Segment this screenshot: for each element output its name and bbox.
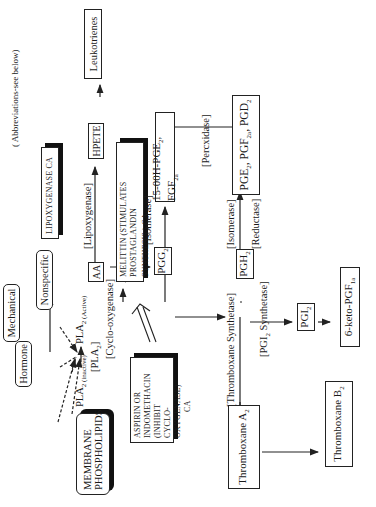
thromboxane-b2-box: Thromboxane B2 — [325, 381, 353, 467]
lipoxygenase-ca-label: LIPOXYGENASE CA — [43, 153, 57, 238]
aa-box: AA — [88, 262, 104, 282]
hpete-label: HPETE — [91, 125, 102, 156]
pla2-active-label: PLA2 (Active) — [74, 296, 88, 344]
membrane-phospholipids-box: MEMBRANE PHOSPHOLIPIDS — [76, 413, 110, 495]
lipoxygenase-label: [Lipoxygenase] — [82, 183, 93, 249]
aspirin-line-2: INDOMETHACIN (INHIBIT — [143, 358, 163, 442]
pgg2-box: PGG2 — [154, 247, 172, 275]
pge2-pgf2a-pgd2-box: PGE2, PGF2a, PGD2 — [232, 95, 260, 195]
6-keto-pgf1a-label: 6-keto-PGF1a — [342, 278, 357, 337]
abbreviations-note: ( Abbreviations-see below) — [10, 50, 20, 147]
nonspecific-label: Nonspecific — [39, 255, 50, 306]
melittin-line-1: MELITTIN (STIMULATES PROSTAGLANDIN — [117, 143, 141, 281]
prostaglandin-pathway-diagram: ( Abbreviations-see below) MEMBRANE PHOS… — [0, 0, 376, 507]
aa-label: AA — [91, 265, 102, 279]
leukotrienes-label: Leukotrienes — [88, 17, 99, 72]
hydroperoxy-label: 15-00H-PGE2, FGF2a — [150, 113, 180, 201]
aspirin-callout: ASPIRIN OR INDOMETHACIN (INHIBIT CYCLO-O… — [130, 357, 174, 443]
peroxidase-label: [Percxidase] — [200, 115, 211, 167]
aspirin-line-3: CYCLO-OXYGENASE) — [163, 358, 183, 442]
melittin-callout: MELITTIN (STIMULATES PROSTAGLANDIN SYNTH… — [116, 142, 144, 282]
reductase-label: [Reductase] — [250, 199, 261, 249]
pgi2-box: PGI2 — [297, 303, 315, 331]
aspirin-line-1: ASPIRIN OR — [131, 358, 143, 442]
pgi2-synthetase-label: [PGI2 Synthetase] — [258, 281, 272, 357]
thromboxane-a2-label: Thromboxane A2 — [236, 409, 251, 484]
isomerase-label-1: [Isomerase] — [142, 195, 153, 245]
hormone-box: Hormone — [15, 341, 32, 387]
cyclooxygenase-label: [Cyclo-oxygenase] — [104, 279, 115, 359]
pla2-inactive-label: PLA2 (inactive) — [74, 355, 88, 407]
isomerase-label-2: [Isomerase] — [225, 199, 236, 249]
hydroperoxy-pge2-box: 15-00H-PGE2, FGF2a — [155, 112, 175, 202]
pgg2-label: PGG2 — [155, 248, 170, 274]
membrane-phospholipids-label: MEMBRANE PHOSPHOLIPIDS — [82, 420, 104, 490]
pgh2-box: PGH2 — [236, 249, 254, 279]
pge2-pgf2a-pgd2-label: PGE2, PGF2a, PGD2 — [238, 100, 253, 191]
pgh2-label: PGH2 — [237, 251, 252, 277]
hormone-label: Hormone — [18, 344, 29, 384]
lipoxygenase-ca-callout: LIPOXYGENASE CA — [41, 147, 59, 239]
thromboxane-b2-label: Thromboxane B2 — [331, 386, 346, 461]
nonspecific-box: Nonspecific — [36, 250, 53, 310]
aspirin-line-4: CA — [183, 358, 193, 442]
hpete-box: HPETE — [88, 123, 104, 159]
6-keto-pgf1a-box: 6-keto-PGF1a — [340, 267, 360, 347]
mechanical-label: Mechanical — [6, 289, 17, 338]
pgi2-label: PGI2 — [298, 306, 313, 327]
thromboxane-a2-box: Thromboxane A2 — [228, 405, 260, 489]
thromboxane-synthetase-label: [Thromboxane Synthetase] — [225, 293, 236, 407]
leukotrienes-box: Leukotrienes — [84, 9, 102, 79]
pla2-enzyme-label: [PLA2] — [89, 342, 103, 372]
mechanical-box: Mechanical — [3, 284, 20, 342]
